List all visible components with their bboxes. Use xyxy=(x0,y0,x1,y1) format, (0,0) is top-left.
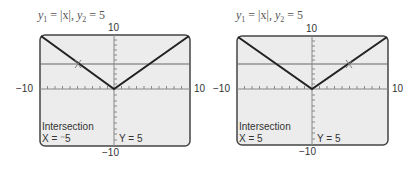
x-value: X = 5 xyxy=(239,133,263,144)
intersection-label: Intersection xyxy=(239,121,291,132)
y-max-label: 10 xyxy=(306,23,317,34)
y-min-label: −10 xyxy=(102,147,119,158)
x-max-label: 10 xyxy=(194,83,205,94)
y-max-label: 10 xyxy=(108,22,119,33)
x-value: X = ⁻5 xyxy=(42,133,71,144)
y-min-label: −10 xyxy=(299,146,316,157)
x-max-label: 10 xyxy=(392,83,403,94)
x-min-label: −10 xyxy=(16,83,33,94)
x-min-label: −10 xyxy=(213,83,230,94)
y-value: Y = 5 xyxy=(317,133,340,144)
graph-panel-right: y1 = |x|, y2 = 5 10 −10 −10 10 Intersect… xyxy=(207,0,414,169)
intersection-label: Intersection xyxy=(42,121,94,132)
graph-panel-left: y1 = |x|, y2 = 5 10 −10 −10 10 Intersect… xyxy=(0,0,207,169)
y-value: Y = 5 xyxy=(119,133,142,144)
